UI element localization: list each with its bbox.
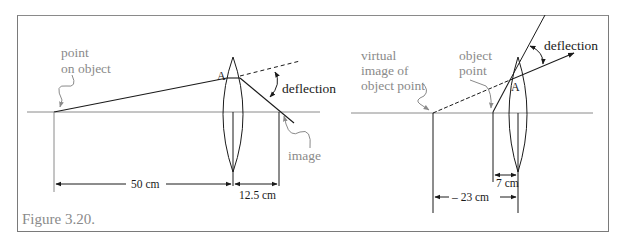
pointer-object-left [59,75,74,107]
left-diagram: point on object A deflection image 50 cm… [27,45,336,201]
label-object-point-1: object [459,48,492,63]
label-point-on-object-1: point [61,45,89,60]
deflection-arc-right [530,46,543,64]
label-A-left: A [217,69,226,83]
label-virtual-image-1: virtual [361,48,396,63]
figure-caption: Figure 3.20. [22,211,95,228]
dim-image-distance-left: 12.5 cm [239,189,276,201]
incoming-ray-right [493,80,510,112]
dim-object-distance-left: 50 cm [131,178,159,190]
undeflected-ray-left [240,61,300,76]
label-virtual-image-3: object point [361,78,425,93]
undeflected-ray-right [510,15,545,80]
virtual-ray-right [433,80,510,113]
deflection-arc-left [270,72,278,97]
dim-image-distance-right: – 23 cm [451,191,489,203]
incoming-ray-left [54,78,227,112]
pointer-image-left [284,116,310,148]
label-object-point-2: point [459,63,487,78]
pointer-object-point-right [470,80,491,108]
label-point-on-object-2: on object [61,61,111,76]
label-deflection-right: deflection [544,38,598,53]
label-deflection-left: deflection [282,81,336,96]
label-A-right: A [511,80,520,94]
dim-object-distance-right: 7 cm [496,177,519,189]
label-image-left: image [288,148,321,163]
right-diagram: virtual image of object point object poi… [351,15,598,213]
label-virtual-image-2: image of [361,63,409,78]
